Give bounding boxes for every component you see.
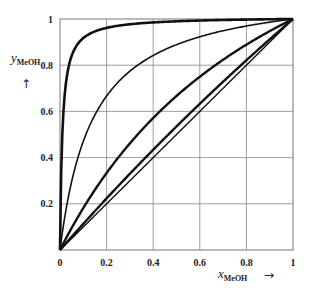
y-tick-label: 0.2 [41, 198, 54, 209]
x-tick-label: 0.2 [100, 257, 113, 268]
x-tick-label: 0.6 [194, 257, 207, 268]
x-tick-labels: 00.20.40.60.81 [58, 257, 296, 268]
y-tick-labels: 0.20.40.60.81 [41, 14, 54, 210]
y-axis-label: yMeOH [9, 50, 41, 67]
y-tick-label: 0.8 [41, 60, 54, 71]
curve-5 [60, 19, 293, 250]
y-tick-label: 0.6 [41, 106, 54, 117]
x-tick-label: 0.8 [240, 257, 253, 268]
y-tick-label: 1 [48, 14, 53, 25]
x-tick-label: 0.4 [147, 257, 160, 268]
curves [60, 19, 293, 250]
x-axis-label: xMeOH [217, 266, 248, 283]
x-axis-arrow-icon: → [264, 268, 274, 282]
y-axis-arrow-icon: ↑ [21, 77, 31, 91]
y-tick-label: 0.4 [41, 152, 54, 163]
x-tick-label: 0 [58, 257, 63, 268]
x-tick-label: 1 [291, 257, 296, 268]
vle-chart: 00.20.40.60.81 0.20.40.60.81 yMeOH ↑ xMe… [0, 0, 311, 294]
